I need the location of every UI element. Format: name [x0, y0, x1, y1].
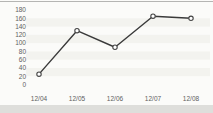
data-point-marker: [75, 28, 79, 32]
y-tick-label: 120: [15, 31, 26, 38]
data-point-marker: [37, 72, 41, 76]
x-tick-label: 12/08: [183, 95, 200, 102]
chart-canvas: 02040608010012014016018012/0412/0512/061…: [0, 0, 213, 113]
grid-row-band: [26, 35, 210, 43]
y-tick-label: 60: [19, 56, 27, 63]
x-tick-label: 12/06: [107, 95, 124, 102]
y-tick-label: 180: [15, 6, 26, 13]
y-tick-label: 100: [15, 39, 26, 46]
data-point-marker: [189, 16, 193, 20]
x-tick-label: 12/05: [69, 95, 86, 102]
y-tick-label: 0: [22, 81, 26, 88]
grid-row-band: [26, 68, 210, 76]
line-chart-panel: 02040608010012014016018012/0412/0512/061…: [0, 0, 213, 113]
y-tick-label: 80: [19, 48, 27, 55]
x-tick-label: 12/07: [145, 95, 162, 102]
y-tick-label: 140: [15, 23, 26, 30]
y-tick-label: 160: [15, 15, 26, 22]
line-chart: 02040608010012014016018012/0412/0512/061…: [0, 0, 213, 113]
data-point-marker: [113, 45, 117, 49]
y-tick-label: 40: [19, 64, 27, 71]
data-point-marker: [151, 14, 155, 18]
footer-band: [0, 105, 213, 113]
grid-row-band: [26, 18, 210, 26]
y-tick-label: 20: [19, 73, 27, 80]
x-tick-label: 12/04: [31, 95, 48, 102]
